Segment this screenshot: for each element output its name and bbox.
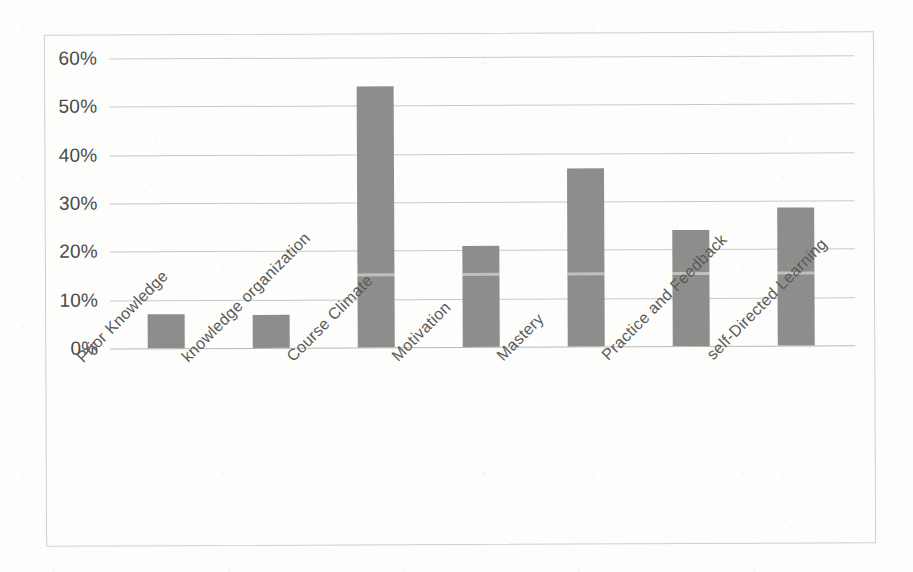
ytick-label-50: 50%	[59, 96, 98, 118]
bar-mastery[interactable]	[567, 168, 605, 346]
chart-root: 60% 50% 40% 30% 20% 10% 0% Prior Knowled…	[0, 0, 913, 572]
bar-course-climate[interactable]	[357, 86, 395, 347]
ytick-label-10: 10%	[59, 290, 98, 312]
gridline-30: 30%	[110, 200, 855, 204]
ytick-label-20: 20%	[59, 241, 98, 263]
bar-prior-knowledge[interactable]	[148, 314, 185, 348]
bar-motivation[interactable]	[462, 245, 499, 347]
ytick-label-40: 40%	[59, 145, 98, 167]
bar-knowledge-organization[interactable]	[253, 315, 290, 348]
ytick-label-60: 60%	[58, 48, 97, 70]
gridline-50: 50%	[109, 103, 854, 107]
ytick-label-30: 30%	[59, 193, 98, 215]
plot-area: 60% 50% 40% 30% 20% 10% 0%	[109, 55, 855, 348]
gridline-40: 40%	[109, 152, 854, 156]
